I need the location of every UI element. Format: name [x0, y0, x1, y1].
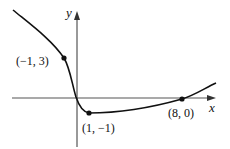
point-marker-neg1-3	[61, 55, 66, 60]
graph-figure: y x (−1, 3) (1, −1) (8, 0)	[0, 0, 230, 149]
y-axis-arrow-icon	[74, 11, 80, 20]
point-label-8-0: (8, 0)	[168, 106, 194, 120]
point-marker-1-neg1	[86, 110, 91, 115]
x-axis-label: x	[208, 100, 215, 115]
point-label-1-neg1: (1, −1)	[82, 121, 115, 135]
y-axis-label: y	[64, 5, 72, 20]
point-marker-8-0	[179, 96, 184, 101]
point-label-neg1-3: (−1, 3)	[16, 54, 49, 68]
